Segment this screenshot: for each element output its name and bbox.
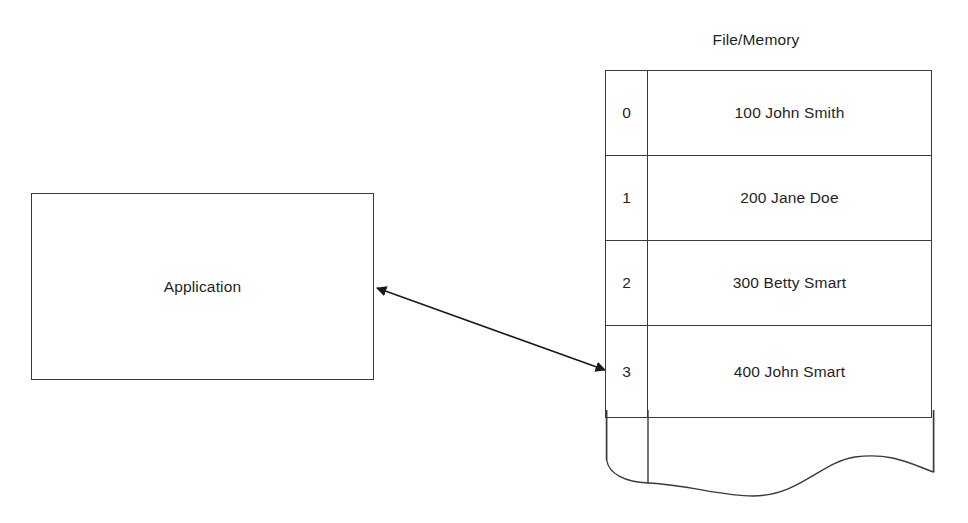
row-record-cell: 300 Betty Smart xyxy=(648,274,931,292)
table-continuation-torn-edge xyxy=(603,410,938,514)
row-record-cell: 100 John Smith xyxy=(648,104,931,122)
row-index-cell: 1 xyxy=(606,156,648,240)
memory-table-title: File/Memory xyxy=(606,29,906,51)
row-record-cell: 400 John Smart xyxy=(648,363,931,381)
application-box-label: Application xyxy=(31,276,374,298)
application-memory-link-arrow xyxy=(368,275,616,383)
table-row[interactable]: 2 300 Betty Smart xyxy=(605,240,932,325)
row-index-cell: 3 xyxy=(606,326,648,417)
row-record-cell: 200 Jane Doe xyxy=(648,189,931,207)
diagram-canvas: Application File/Memory 0 100 John Smith… xyxy=(0,0,968,523)
table-row[interactable]: 3 400 John Smart xyxy=(605,325,932,418)
row-index-cell: 2 xyxy=(606,241,648,325)
row-index-cell: 0 xyxy=(606,71,648,155)
table-row[interactable]: 0 100 John Smith xyxy=(605,70,932,155)
memory-table: 0 100 John Smith 1 200 Jane Doe 2 300 Be… xyxy=(605,70,932,418)
table-row[interactable]: 1 200 Jane Doe xyxy=(605,155,932,240)
